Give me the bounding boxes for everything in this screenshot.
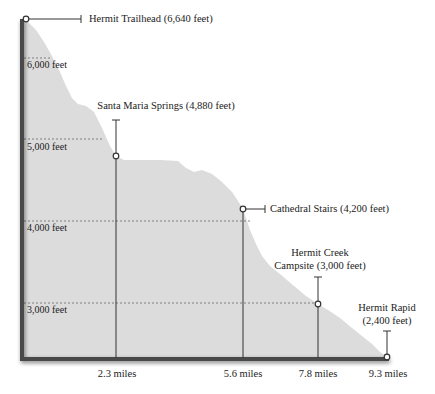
x-tick-9-3: 9.3 miles (369, 368, 408, 379)
x-axis (20, 357, 389, 361)
y-axis (20, 19, 24, 361)
label-santa-maria: Santa Maria Springs (4,880 feet) (97, 99, 234, 112)
point-creek (315, 301, 321, 307)
label-creek-line2: Campsite (3,000 feet) (274, 259, 365, 272)
label-creek: Hermit Creek Campsite (3,000 feet) (274, 246, 365, 272)
label-rapid: Hermit Rapid (2,400 feet) (358, 301, 415, 327)
label-trailhead: Hermit Trailhead (6,640 feet) (89, 12, 213, 25)
x-tick-5-6: 5.6 miles (224, 368, 263, 379)
point-trailhead (23, 16, 29, 22)
label-rapid-line2: (2,400 feet) (358, 314, 415, 327)
y-tick-4000: 4,000 feet (27, 222, 67, 233)
x-tick-2-3: 2.3 miles (98, 368, 137, 379)
label-creek-line1: Hermit Creek (274, 246, 365, 259)
y-tick-6000: 6,000 feet (27, 59, 67, 70)
label-cathedral: Cathedral Stairs (4,200 feet) (270, 202, 389, 215)
label-rapid-line1: Hermit Rapid (358, 301, 415, 314)
point-santa-maria (113, 153, 119, 159)
point-cathedral (240, 206, 246, 212)
x-tick-7-8: 7.8 miles (299, 368, 338, 379)
elevation-profile-chart: Hermit Trailhead (6,640 feet) Santa Mari… (0, 0, 435, 394)
y-tick-5000: 5,000 feet (27, 141, 67, 152)
point-rapid (384, 354, 390, 360)
elevation-area (22, 19, 387, 360)
y-tick-3000: 3,000 feet (27, 304, 67, 315)
